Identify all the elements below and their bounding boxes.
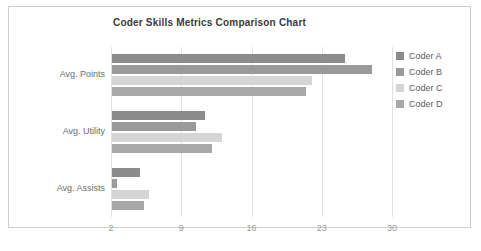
- y-axis-category-labels: Avg. PointsAvg. UtilityAvg. Assists: [9, 47, 105, 217]
- legend-item[interactable]: Coder C: [396, 81, 476, 95]
- bar: [112, 122, 196, 131]
- bar: [112, 65, 372, 74]
- gridline: [392, 47, 393, 217]
- bar: [112, 76, 312, 85]
- legend-swatch-icon: [396, 68, 404, 76]
- x-axis-tick-label: 16: [246, 223, 256, 233]
- x-axis-tick-label: 23: [317, 223, 327, 233]
- chart-frame: Coder Skills Metrics Comparison Chart Av…: [8, 6, 471, 228]
- legend-swatch-icon: [396, 84, 404, 92]
- chart-screenshot: Coder Skills Metrics Comparison Chart Av…: [0, 0, 481, 251]
- bar: [112, 133, 222, 142]
- x-axis-tick-label: 2: [108, 223, 113, 233]
- y-axis-category-label: Avg. Points: [60, 69, 105, 79]
- legend-label: Coder C: [409, 83, 443, 93]
- bar: [112, 179, 117, 188]
- bar: [112, 87, 306, 96]
- chart-title: Coder Skills Metrics Comparison Chart: [113, 17, 306, 28]
- y-axis-category-label: Avg. Utility: [63, 126, 105, 136]
- y-axis-category-label: Avg. Assists: [57, 183, 105, 193]
- legend-label: Coder A: [409, 51, 442, 61]
- bar: [112, 201, 144, 210]
- bar: [112, 54, 345, 63]
- bar: [112, 168, 140, 177]
- x-axis-tick-label: 9: [179, 223, 184, 233]
- x-axis-tick-label: 30: [387, 223, 397, 233]
- bar: [112, 111, 205, 120]
- bar: [112, 144, 212, 153]
- legend-label: Coder B: [409, 67, 442, 77]
- legend-label: Coder D: [409, 99, 443, 109]
- legend-item[interactable]: Coder A: [396, 49, 476, 63]
- legend-item[interactable]: Coder D: [396, 97, 476, 111]
- plot-area: 29162330: [111, 47, 392, 217]
- legend-item[interactable]: Coder B: [396, 65, 476, 79]
- legend-swatch-icon: [396, 100, 404, 108]
- legend-swatch-icon: [396, 52, 404, 60]
- chart-legend: Coder ACoder BCoder CCoder D: [396, 49, 476, 113]
- bar: [112, 190, 149, 199]
